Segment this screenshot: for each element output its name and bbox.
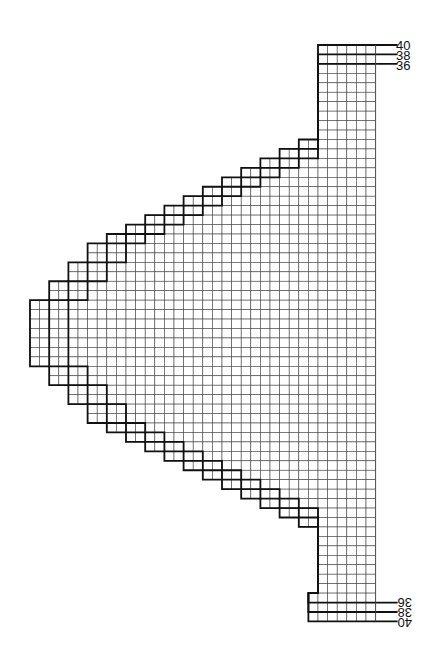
- grid-cell: [337, 319, 347, 328]
- grid-cell: [328, 366, 338, 375]
- grid-cell: [136, 300, 146, 309]
- grid-cell: [366, 168, 376, 177]
- grid-cell: [356, 612, 366, 621]
- grid-cell: [193, 300, 203, 309]
- grid-cell: [347, 357, 357, 366]
- grid-cell: [366, 140, 376, 149]
- grid-cell: [328, 338, 338, 347]
- grid-cell: [328, 489, 338, 498]
- grid-cell: [260, 423, 270, 432]
- grid-cell: [222, 414, 232, 423]
- grid-cell: [164, 414, 174, 423]
- grid-cell: [270, 432, 280, 441]
- grid-cell: [49, 357, 59, 366]
- grid-cell: [241, 451, 251, 460]
- grid-cell: [289, 338, 299, 347]
- grid-cell: [356, 158, 366, 167]
- grid-cell: [97, 395, 107, 404]
- grid-cell: [318, 404, 328, 413]
- grid-cell: [251, 357, 261, 366]
- grid-cell: [366, 177, 376, 186]
- grid-cell: [308, 451, 318, 460]
- grid-cell: [318, 546, 328, 555]
- grid-cell: [145, 262, 155, 271]
- grid-cell: [366, 329, 376, 338]
- grid-cell: [241, 489, 251, 498]
- grid-cell: [97, 319, 107, 328]
- grid-cell: [97, 262, 107, 271]
- grid-cell: [347, 158, 357, 167]
- grid-cell: [337, 168, 347, 177]
- grid-cell: [347, 347, 357, 356]
- grid-cell: [251, 461, 261, 470]
- grid-cell: [116, 329, 126, 338]
- grid-cell: [318, 508, 328, 517]
- grid-cell: [366, 499, 376, 508]
- grid-cell: [299, 451, 309, 460]
- grid-cell: [88, 414, 98, 423]
- grid-cell: [88, 300, 98, 309]
- grid-cell: [337, 366, 347, 375]
- grid-cell: [337, 243, 347, 252]
- grid-cell: [212, 461, 222, 470]
- grid-cell: [337, 603, 347, 612]
- grid-cell: [328, 291, 338, 300]
- grid-cell: [222, 338, 232, 347]
- grid-cell: [308, 196, 318, 205]
- grid-cell: [260, 480, 270, 489]
- grid-cell: [145, 329, 155, 338]
- grid-cell: [328, 518, 338, 527]
- grid-cell: [347, 206, 357, 215]
- grid-cell: [222, 442, 232, 451]
- grid-cell: [299, 423, 309, 432]
- grid-cell: [68, 262, 78, 271]
- grid-cell: [318, 376, 328, 385]
- grid-cell: [280, 461, 290, 470]
- grid-cell: [260, 300, 270, 309]
- grid-cell: [356, 508, 366, 517]
- grid-cell: [241, 243, 251, 252]
- grid-cell: [88, 262, 98, 271]
- grid-cell: [116, 357, 126, 366]
- grid-cell: [328, 215, 338, 224]
- grid-cell: [366, 442, 376, 451]
- grid-cell: [356, 73, 366, 82]
- grid-cell: [40, 300, 50, 309]
- grid-cell: [107, 310, 117, 319]
- grid-cell: [289, 451, 299, 460]
- grid-cell: [107, 253, 117, 262]
- grid-cell: [174, 225, 184, 234]
- grid-cell: [308, 206, 318, 215]
- grid-cell: [299, 347, 309, 356]
- grid-cell: [203, 338, 213, 347]
- grid-cell: [270, 225, 280, 234]
- grid-cell: [337, 480, 347, 489]
- grid-cell: [145, 442, 155, 451]
- grid-cell: [366, 593, 376, 602]
- grid-cell: [280, 281, 290, 290]
- grid-cell: [289, 385, 299, 394]
- grid-cell: [347, 376, 357, 385]
- grid-cell: [251, 281, 261, 290]
- grid-cell: [356, 527, 366, 536]
- grid-cell: [318, 130, 328, 139]
- grid-cell: [318, 432, 328, 441]
- grid-cell: [212, 366, 222, 375]
- grid-cell: [366, 451, 376, 460]
- grid-cell: [212, 357, 222, 366]
- grid-cell: [260, 272, 270, 281]
- grid-cell: [356, 414, 366, 423]
- grid-cell: [347, 546, 357, 555]
- grid-cell: [280, 225, 290, 234]
- grid-cell: [155, 262, 165, 271]
- grid-cell: [308, 432, 318, 441]
- grid-cell: [136, 234, 146, 243]
- grid-cell: [328, 196, 338, 205]
- grid-cell: [212, 385, 222, 394]
- grid-cell: [347, 253, 357, 262]
- grid-cell: [299, 499, 309, 508]
- grid-cell: [366, 432, 376, 441]
- grid-cell: [222, 451, 232, 460]
- grid-cell: [270, 499, 280, 508]
- grid-cell: [241, 225, 251, 234]
